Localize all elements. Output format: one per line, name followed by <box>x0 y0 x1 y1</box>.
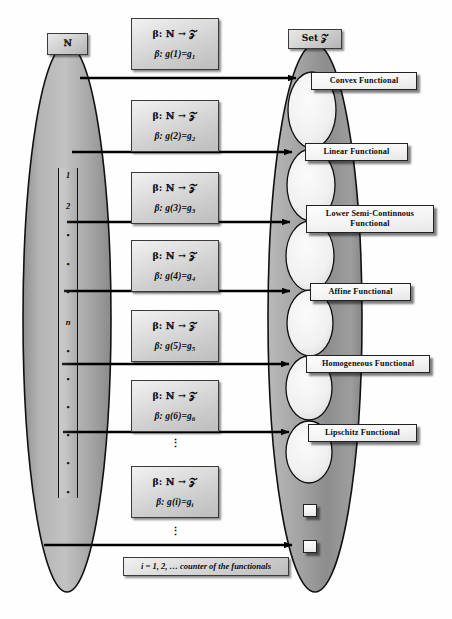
functional-label-placeholder-2 <box>303 540 317 553</box>
functional-label-lipschitz: Lipschitz Functional <box>308 424 417 442</box>
index-item-8: • <box>66 377 69 382</box>
index-item-10: • <box>66 433 69 438</box>
left-set-tag-label: ℕ <box>63 38 71 49</box>
formula-line-2: β: g(3)=g3 <box>155 203 196 215</box>
index-item-n: n <box>66 318 71 327</box>
formula-line-1: β: ℕ → 𝒵 <box>152 250 197 262</box>
mapping-formula-box-4: β: ℕ → 𝒵 β: g(4)=g4 <box>131 240 219 292</box>
right-set-tag-label: Set 𝒵 <box>302 33 329 44</box>
functional-label-placeholder-1 <box>303 504 317 517</box>
formula-line-1: β: ℕ → 𝒵 <box>152 390 197 402</box>
formula-line-1: β: ℕ → 𝒵 <box>152 182 197 194</box>
index-item-3: • <box>66 233 69 238</box>
left-set-tag: ℕ <box>47 33 88 55</box>
mapping-formula-box-5: β: ℕ → 𝒵 β: g(5)=g5 <box>131 310 219 362</box>
formula-ellipsis: ⋮ <box>168 440 182 446</box>
functional-label-linear: Linear Functional <box>305 143 408 161</box>
counter-caption: i = 1, 2, … counter of the functionals <box>123 557 289 576</box>
functional-label-text: Affine Functional <box>328 287 392 297</box>
index-item-5: • <box>66 290 69 295</box>
functional-label-text: Homogeneous Functional <box>322 359 414 369</box>
index-item-9: • <box>66 405 69 410</box>
functional-label-convex: Convex Functional <box>311 72 417 90</box>
formula-line-1: β: ℕ → 𝒵 <box>152 320 197 332</box>
formula-line-2: β: g(2)=g2 <box>155 131 196 143</box>
functional-label-lower-semi-continuous: Lower Semi-Continnous Functional <box>306 205 434 233</box>
mapping-formula-box-1: β: ℕ → 𝒵 β: g(1)=g1 <box>131 18 219 70</box>
formula-line-2: β: g(6)=g6 <box>155 411 196 423</box>
functional-label-text: Convex Functional <box>330 76 399 86</box>
right-set-tag: Set 𝒵 <box>288 29 342 49</box>
functional-label-text: Lower Semi-Continnous Functional <box>311 209 429 230</box>
formula-line-1: β: ℕ → 𝒵 <box>152 476 197 488</box>
functional-label-affine: Affine Functional <box>310 283 411 301</box>
counter-caption-text: i = 1, 2, … counter of the functionals <box>141 561 271 572</box>
formula-line-2: β: g(1)=g1 <box>155 49 196 61</box>
index-item-4: • <box>66 262 69 267</box>
index-item-1: 1 <box>66 171 70 180</box>
formula-line-2: β: g(4)=g4 <box>155 271 196 283</box>
index-item-2: 2 <box>66 202 70 211</box>
formula-ellipsis-lower: ⋮ <box>168 528 182 534</box>
index-item-7: • <box>66 349 69 354</box>
mapping-formula-box-6: β: ℕ → 𝒵 β: g(6)=g6 <box>131 380 219 432</box>
formula-line-2: β: g(i)=gi <box>156 497 193 509</box>
index-item-12: • <box>66 490 69 495</box>
diagram-canvas: ℕ Set 𝒵 1 2 • • • n • • • • • • β: ℕ → 𝒵… <box>0 0 452 619</box>
mapping-formula-box-i: β: ℕ → 𝒵 β: g(i)=gi <box>131 466 219 518</box>
functional-label-text: Linear Functional <box>324 147 390 157</box>
mapping-formula-box-2: β: ℕ → 𝒵 β: g(2)=g2 <box>131 100 219 152</box>
functional-label-homogeneous: Homogeneous Functional <box>306 355 430 373</box>
formula-line-1: β: ℕ → 𝒵 <box>152 28 197 40</box>
functional-label-text: Lipschitz Functional <box>325 428 400 438</box>
formula-line-2: β: g(5)=g5 <box>155 341 196 353</box>
index-item-11: • <box>66 461 69 466</box>
formula-line-1: β: ℕ → 𝒵 <box>152 110 197 122</box>
index-column: 1 2 • • • n • • • • • • <box>58 168 78 498</box>
mapping-formula-box-3: β: ℕ → 𝒵 β: g(3)=g3 <box>131 172 219 224</box>
